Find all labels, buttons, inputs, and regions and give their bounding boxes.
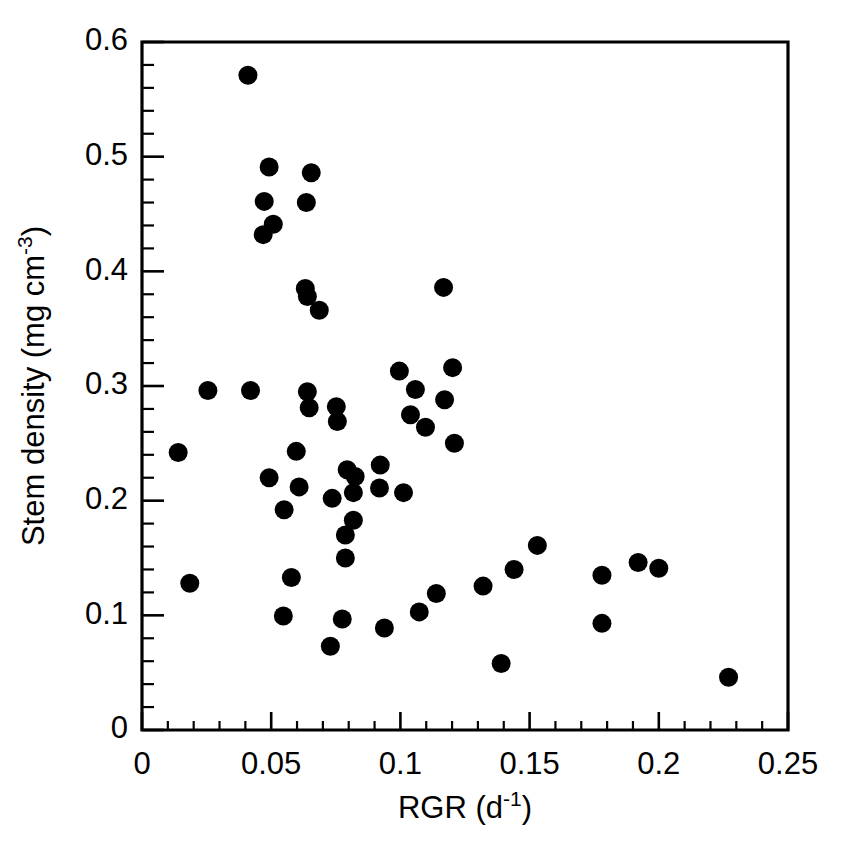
y-tick-label: 0.6 [85,22,128,57]
x-axis-title-superscript: -1 [503,787,522,810]
y-axis-title-base: Stem density (mg cm [16,255,51,546]
y-tick-label: 0.4 [85,252,128,287]
x-axis-title-base: RGR (d [398,790,503,825]
data-point-marker [180,574,199,593]
data-point-marker [260,157,279,176]
y-axis-tick-labels: 00.10.20.30.40.50.6 [85,22,128,745]
scatter-plot-figure: 00.050.10.150.20.25 00.10.20.30.40.50.6 … [0,0,844,848]
data-point-marker [298,382,317,401]
data-point-marker [371,456,390,475]
data-point-marker [346,467,365,486]
data-point-marker [390,362,409,381]
x-axis-title-tail: ) [522,790,532,825]
data-point-marker [274,607,293,626]
data-point-marker [275,500,294,519]
y-tick-label: 0.1 [85,596,128,631]
data-point-marker [528,536,547,555]
y-axis-title-tail: ) [16,226,51,236]
data-point-marker [336,526,355,545]
data-point-marker [394,483,413,502]
x-axis-major-ticks [142,712,788,730]
data-point-marker [321,637,340,656]
data-point-marker [344,483,363,502]
y-axis-major-ticks [142,42,164,730]
axes-frame-box [142,42,788,730]
data-point-marker [254,225,273,244]
data-point-marker [375,619,394,638]
x-tick-label: 0.2 [637,746,680,781]
data-point-marker [282,568,301,587]
data-point-marker [336,549,355,568]
x-tick-label: 0 [133,746,150,781]
data-point-marker [198,381,217,400]
data-point-marker [310,301,329,320]
data-point-marker [505,560,524,579]
data-point-marker [649,559,668,578]
x-axis-tick-labels: 00.050.10.150.20.25 [133,746,818,781]
data-point-marker [434,278,453,297]
data-point-marker [238,66,257,85]
data-point-marker [333,610,352,629]
x-axis-title: RGR (d-1) [398,787,532,825]
y-axis-title: Stem density (mg cm-3) [13,226,51,546]
y-axis-title-superscript: -3 [13,236,36,255]
y-tick-label: 0.2 [85,481,128,516]
y-tick-label: 0.5 [85,137,128,172]
x-tick-label: 0.15 [499,746,559,781]
data-point-marker [474,577,493,596]
data-point-marker [323,489,342,508]
data-point-marker [445,434,464,453]
data-point-marker [443,358,462,377]
data-point-marker [169,443,188,462]
plot-frame [142,42,788,730]
x-tick-label: 0.25 [758,746,818,781]
data-point-marker [406,380,425,399]
plot-canvas: 00.050.10.150.20.25 00.10.20.30.40.50.6 … [0,0,844,848]
data-point-marker [241,381,260,400]
data-point-marker [416,418,435,437]
data-point-marker [410,602,429,621]
data-point-marker [427,584,446,603]
data-point-marker [592,614,611,633]
data-point-marker [435,390,454,409]
data-point-marker [492,654,511,673]
data-point-marker [328,412,347,431]
data-point-marker [719,668,738,687]
y-tick-label: 0 [111,710,128,745]
data-point-marker [297,193,316,212]
data-point-marker [401,405,420,424]
data-point-marker [592,566,611,585]
data-point-marker [287,442,306,461]
scatter-data-markers [169,66,738,687]
data-point-marker [302,163,321,182]
x-tick-label: 0.1 [379,746,422,781]
data-point-marker [370,479,389,498]
data-point-marker [629,553,648,572]
data-point-marker [260,468,279,487]
data-point-marker [300,398,319,417]
x-tick-label: 0.05 [241,746,301,781]
data-point-marker [290,477,309,496]
y-tick-label: 0.3 [85,366,128,401]
data-point-marker [255,192,274,211]
